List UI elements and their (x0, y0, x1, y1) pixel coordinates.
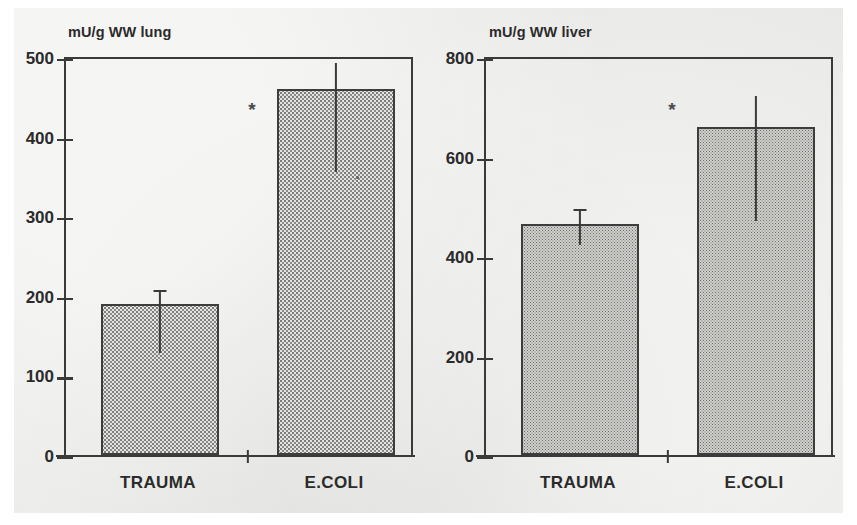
panel-title-lung: mU/g WW lung (68, 24, 171, 40)
figure-canvas: mU/g WW lung 0 100 200 300 400 (0, 0, 857, 525)
x-axis-center-tick-liver (667, 450, 669, 463)
y-tick-label: 400 (26, 129, 54, 149)
y-tick-label: 200 (26, 288, 54, 308)
y-tick-label: 400 (446, 248, 474, 268)
y-tick-mark (57, 139, 73, 141)
plot-area-liver: 0 200 400 600 800 (484, 57, 833, 455)
error-bar-cap-liver-trauma (574, 209, 587, 211)
significance-asterisk-lung: * (248, 100, 255, 119)
y-tick-mark (477, 159, 493, 161)
y-tick-mark (57, 59, 73, 61)
y-tick-label: 600 (446, 149, 474, 169)
scan-speck (356, 176, 359, 179)
y-tick-mark (477, 358, 493, 360)
y-tick-mark (477, 59, 493, 61)
error-bar-cap-lung-trauma (154, 290, 167, 292)
y-tick-mark (477, 258, 493, 260)
x-axis-label-lung-trauma: TRAUMA (120, 473, 196, 493)
error-bar-lung-ecoli (335, 63, 337, 172)
x-axis-center-tick-lung (247, 450, 249, 463)
y-tick-label: 100 (26, 367, 54, 387)
y-tick-mark (57, 298, 73, 300)
y-tick-label: 0 (465, 447, 474, 467)
significance-asterisk-liver: * (668, 100, 675, 119)
y-tick-mark (57, 218, 73, 220)
x-axis-label-lung-ecoli: E.COLI (304, 473, 363, 493)
y-tick-mark (477, 457, 493, 459)
y-tick-label: 200 (446, 348, 474, 368)
y-tick-label: 500 (26, 49, 54, 69)
error-bar-lung-trauma (159, 292, 161, 353)
chart-panel-liver: mU/g WW liver 0 200 400 600 800 (430, 0, 857, 525)
error-bar-liver-trauma (579, 211, 581, 245)
plot-area-lung: 0 100 200 300 400 500 (64, 57, 413, 455)
y-tick-mark (57, 377, 73, 379)
bar-liver-trauma[interactable] (521, 224, 639, 455)
y-tick-label: 0 (45, 447, 54, 467)
y-tick-label: 300 (26, 208, 54, 228)
x-axis-label-liver-trauma: TRAUMA (540, 473, 616, 493)
y-tick-label: 800 (446, 49, 474, 69)
y-tick-mark (57, 457, 73, 459)
x-axis-label-liver-ecoli: E.COLI (724, 473, 783, 493)
panel-title-liver: mU/g WW liver (489, 24, 592, 40)
error-bar-liver-ecoli (755, 96, 757, 221)
chart-panel-lung: mU/g WW lung 0 100 200 300 400 (0, 0, 430, 525)
